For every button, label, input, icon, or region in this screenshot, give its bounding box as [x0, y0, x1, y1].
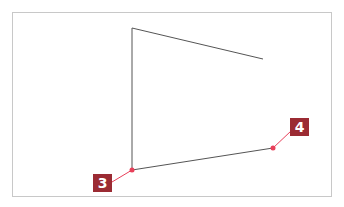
marker-label-3: 3 [93, 174, 112, 192]
leader-line-4 [273, 131, 291, 148]
leader-line-3 [112, 170, 132, 182]
marker-dot-3 [130, 168, 135, 173]
diagram-canvas [0, 0, 344, 207]
marker-label-4: 4 [290, 118, 309, 136]
marker-dot-4 [271, 146, 276, 151]
shape-outline [132, 28, 273, 170]
